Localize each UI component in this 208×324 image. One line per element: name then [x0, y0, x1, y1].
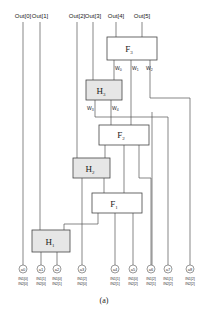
figure-caption: (a)	[100, 296, 109, 305]
block-h2: H2	[73, 158, 110, 178]
svg-text:IN1[1]: IN1[1]	[163, 277, 173, 281]
w2-label: W2	[146, 65, 153, 72]
out-5-label: Out[5]	[134, 13, 151, 19]
svg-text:IN1[1]: IN1[1]	[110, 277, 120, 281]
input-signal-labels: IN1[0] IN2[0] IN1[1] IN2[0] IN1[0] IN2[1…	[18, 277, 195, 286]
svg-text:a0: a0	[21, 267, 26, 272]
block-f1: F1	[92, 193, 142, 213]
svg-text:IN2[2]: IN2[2]	[163, 282, 173, 286]
svg-text:IN2[0]: IN2[0]	[36, 282, 46, 286]
svg-text:a5: a5	[131, 267, 136, 272]
svg-text:a8: a8	[188, 267, 193, 272]
svg-text:IN2[1]: IN2[1]	[146, 282, 156, 286]
out-4-label: Out[4]	[108, 13, 125, 19]
svg-text:IN1[1]: IN1[1]	[36, 277, 46, 281]
svg-text:IN2[1]: IN2[1]	[52, 282, 62, 286]
block-h3: H3	[86, 80, 122, 100]
svg-text:IN2[0]: IN2[0]	[77, 282, 87, 286]
block-f3: F3	[107, 37, 157, 60]
svg-text:IN1[0]: IN1[0]	[18, 277, 28, 281]
svg-text:a3: a3	[80, 267, 85, 272]
svg-text:a7: a7	[166, 267, 171, 272]
input-node-labels: a0 a1 a2 a3 a4 a5 a6 a7 a8	[21, 267, 193, 272]
svg-text:IN1[0]: IN1[0]	[52, 277, 62, 281]
multiplier-diagram: Out[0] Out[1] Out[2] Out[3] Out[4] Out[5…	[0, 0, 208, 324]
svg-text:IN1[2]: IN1[2]	[146, 277, 156, 281]
out-1-label: Out[1]	[32, 13, 49, 19]
out-3-label: Out[3]	[85, 13, 102, 19]
svg-text:IN2[2]: IN2[2]	[128, 282, 138, 286]
svg-text:IN1[0]: IN1[0]	[128, 277, 138, 281]
svg-text:IN2[1]: IN2[1]	[110, 282, 120, 286]
w1-label: W1	[132, 65, 139, 72]
svg-text:a2: a2	[55, 267, 60, 272]
out-2-label: Out[2]	[69, 13, 86, 19]
svg-text:IN1[2]: IN1[2]	[77, 277, 87, 281]
block-f2: F2	[99, 125, 149, 145]
block-h1: H1	[32, 230, 70, 252]
svg-text:IN2[0]: IN2[0]	[18, 282, 28, 286]
svg-text:a1: a1	[39, 267, 44, 272]
w0-label: W0	[115, 65, 122, 72]
svg-text:a4: a4	[113, 267, 118, 272]
svg-text:IN2[2]: IN2[2]	[185, 282, 195, 286]
w4-label: W4	[112, 105, 119, 112]
svg-text:a6: a6	[149, 267, 154, 272]
out-0-label: Out[0]	[15, 13, 32, 19]
output-labels: Out[0] Out[1] Out[2] Out[3] Out[4] Out[5…	[15, 13, 151, 19]
w3-label: W3	[87, 105, 94, 112]
svg-text:IN1[2]: IN1[2]	[185, 277, 195, 281]
